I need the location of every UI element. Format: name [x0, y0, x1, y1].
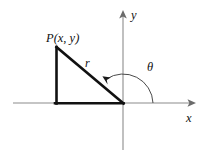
angle-arc-path	[106, 74, 153, 103]
angle-label: θ	[147, 61, 153, 74]
diagram-canvas	[0, 0, 203, 158]
y-axis	[119, 10, 127, 150]
angle-arc	[102, 74, 153, 103]
radius-label: r	[85, 57, 90, 69]
point-label: P(x, y)	[46, 32, 79, 45]
y-axis-label: y	[131, 9, 137, 22]
angle-arc-arrowhead	[102, 76, 110, 84]
coordinate-diagram: P(x, y) r θ y x	[0, 0, 203, 158]
x-axis-label: x	[186, 112, 192, 125]
